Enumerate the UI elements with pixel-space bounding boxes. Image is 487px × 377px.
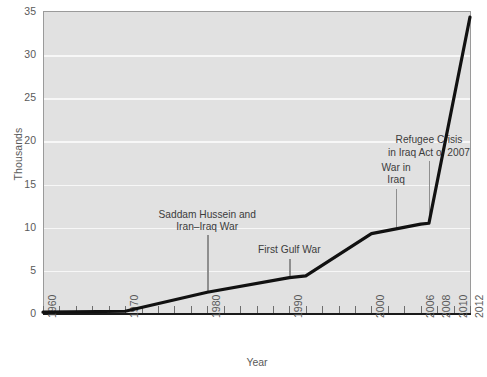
- x-minor-tick: [224, 306, 225, 313]
- x-minor-tick: [371, 306, 372, 313]
- x-minor-tick: [109, 306, 110, 313]
- x-minor-tick: [59, 306, 60, 313]
- annotation-line: First Gulf War: [179, 244, 399, 256]
- x-minor-tick: [470, 306, 471, 313]
- x-minor-tick: [273, 306, 274, 313]
- annotation-line: in Iraq Act of 2007: [319, 147, 487, 159]
- x-tick-label: 2008: [441, 295, 452, 318]
- x-minor-tick: [322, 306, 323, 313]
- annotation-refugee-crisis-in-iraq-act-of-2007: Refugee Crisisin Iraq Act of 2007: [319, 134, 487, 159]
- x-minor-tick: [421, 306, 422, 313]
- x-minor-tick: [306, 306, 307, 313]
- y-tick-label: 5: [6, 265, 36, 276]
- x-minor-tick: [437, 306, 438, 313]
- gridline: [43, 271, 470, 273]
- y-tick-label: 0: [6, 308, 36, 319]
- x-axis-line: [43, 313, 471, 315]
- annotation-line: Iraq: [286, 174, 487, 186]
- y-tick-label: 25: [6, 92, 36, 103]
- y-axis-title: Thousands: [12, 94, 24, 214]
- y-tick-label: 15: [6, 179, 36, 190]
- gridline: [43, 98, 470, 100]
- x-minor-tick: [289, 306, 290, 313]
- x-minor-tick: [92, 306, 93, 313]
- x-tick-label: 2010: [458, 295, 469, 318]
- annotation-first-gulf-war: First Gulf War: [179, 244, 399, 256]
- annotation-leader-line-refugee-crisis-in-iraq-act-of-2007: [429, 161, 430, 223]
- x-minor-tick: [404, 306, 405, 313]
- y-tick-label: 30: [6, 49, 36, 60]
- x-minor-tick: [355, 306, 356, 313]
- annotation-leader-line-first-gulf-war: [289, 259, 290, 278]
- x-minor-tick: [158, 306, 159, 313]
- x-minor-tick: [454, 306, 455, 313]
- x-minor-tick: [207, 306, 208, 313]
- x-tick-label: 2012: [474, 295, 485, 318]
- x-minor-tick: [76, 306, 77, 313]
- x-minor-tick: [125, 306, 126, 313]
- x-minor-tick: [240, 306, 241, 313]
- annotation-line: Saddam Hussein and: [97, 209, 317, 221]
- x-minor-tick: [257, 306, 258, 313]
- annotation-line: War in: [286, 162, 487, 174]
- annotation-saddam-hussein-iran-iraq-war: Saddam Hussein andIran–Iraq War: [97, 209, 317, 234]
- x-tick-label: 1970: [129, 295, 140, 318]
- x-tick-label: 2000: [375, 295, 386, 318]
- x-axis-title: Year: [43, 356, 471, 368]
- gridline: [43, 55, 470, 57]
- x-minor-tick: [142, 306, 143, 313]
- x-minor-tick: [191, 306, 192, 313]
- annotation-leader-line-war-in-iraq: [396, 189, 397, 230]
- y-tick-label: 35: [6, 6, 36, 17]
- y-tick-label: 10: [6, 222, 36, 233]
- x-minor-tick: [388, 306, 389, 313]
- annotation-line: Refugee Crisis: [319, 134, 487, 146]
- x-tick-label: 1990: [293, 295, 304, 318]
- annotation-war-in-iraq: War inIraq: [286, 162, 487, 187]
- x-minor-tick: [43, 306, 44, 313]
- y-axis-line: [43, 11, 44, 314]
- x-tick-label: 1980: [211, 295, 222, 318]
- x-tick-label: 2006: [425, 295, 436, 318]
- chart-container: Thousands 051015202530351960197019801990…: [0, 0, 487, 377]
- x-minor-tick: [174, 306, 175, 313]
- y-tick-label: 20: [6, 135, 36, 146]
- annotation-line: Iran–Iraq War: [97, 221, 317, 233]
- x-tick-label: 1960: [47, 295, 58, 318]
- x-minor-tick: [339, 306, 340, 313]
